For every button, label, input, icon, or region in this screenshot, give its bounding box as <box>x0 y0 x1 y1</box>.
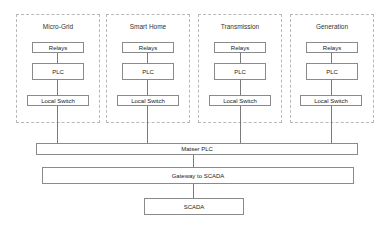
group-title: Transmission <box>199 23 281 30</box>
relays-box: Relays <box>122 42 174 53</box>
local-switch-box: Local Switch <box>117 95 179 106</box>
scada-box: SCADA <box>144 198 244 215</box>
group-title: Generation <box>291 23 373 30</box>
master-plc-box: Matser PLC <box>36 143 358 155</box>
relays-box: Relays <box>306 42 358 53</box>
relays-box: Relays <box>32 42 84 53</box>
plc-box: PLC <box>306 63 358 80</box>
group-title: Micro-Grid <box>17 23 99 30</box>
plc-box: PLC <box>214 63 266 80</box>
connector-line <box>193 184 194 198</box>
local-switch-box: Local Switch <box>209 95 271 106</box>
plc-box: PLC <box>122 63 174 80</box>
gateway-box: Gateway to SCADA <box>42 167 354 184</box>
group-title: Smart Home <box>107 23 189 30</box>
relays-box: Relays <box>214 42 266 53</box>
plc-box: PLC <box>32 63 84 80</box>
local-switch-box: Local Switch <box>27 95 89 106</box>
local-switch-box: Local Switch <box>300 95 362 106</box>
